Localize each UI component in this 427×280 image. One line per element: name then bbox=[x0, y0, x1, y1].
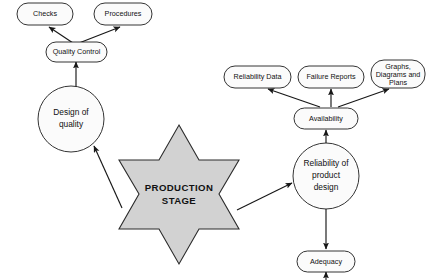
node-reliability-of-product-design-label-line2: product bbox=[312, 170, 341, 180]
node-design-of-quality-label-line1: Design of bbox=[53, 107, 89, 117]
node-design-of-quality[interactable]: Design of quality bbox=[38, 86, 104, 152]
node-production-stage-label-line1: PRODUCTION bbox=[145, 182, 214, 193]
node-adequacy-label: Adequacy bbox=[310, 257, 342, 266]
node-checks[interactable]: Checks bbox=[17, 3, 73, 25]
node-availability-label: Availability bbox=[309, 114, 343, 123]
node-procedures[interactable]: Procedures bbox=[94, 3, 152, 25]
edge-quality-control-to-checks bbox=[49, 27, 73, 43]
node-adequacy[interactable]: Adequacy bbox=[297, 251, 355, 272]
node-reliability-of-product-design[interactable]: Reliability of product design bbox=[293, 143, 359, 209]
node-graphs-diagrams-plans[interactable]: Graphs, Diagrams and Plans bbox=[371, 60, 425, 88]
node-reliability-of-product-design-label-line3: design bbox=[314, 182, 339, 192]
diagram-svg: Checks Procedures Quality Control Design… bbox=[0, 0, 427, 280]
node-quality-control-label: Quality Control bbox=[53, 47, 101, 56]
node-graphs-diagrams-plans-label-line3: Plans bbox=[389, 78, 407, 87]
edge-production-stage-to-reliability-of-product-design bbox=[237, 183, 292, 210]
node-availability[interactable]: Availability bbox=[294, 108, 358, 129]
edge-production-stage-to-design-of-quality bbox=[94, 146, 122, 208]
node-failure-reports-label: Failure Reports bbox=[306, 72, 356, 81]
diagram-canvas: Checks Procedures Quality Control Design… bbox=[0, 0, 427, 280]
edge-availability-to-graphs-diagrams-plans bbox=[338, 89, 389, 107]
node-design-of-quality-label-line2: quality bbox=[59, 119, 84, 129]
node-failure-reports[interactable]: Failure Reports bbox=[298, 66, 364, 88]
node-reliability-data[interactable]: Reliability Data bbox=[224, 66, 291, 88]
node-quality-control[interactable]: Quality Control bbox=[46, 42, 107, 62]
node-procedures-label: Procedures bbox=[105, 9, 142, 18]
node-production-stage[interactable]: PRODUCTION STAGE bbox=[119, 125, 239, 264]
edge-quality-control-to-procedures bbox=[79, 27, 120, 43]
node-reliability-of-product-design-label-line1: Reliability of bbox=[303, 158, 349, 168]
node-production-stage-label-line2: STAGE bbox=[162, 195, 197, 206]
node-checks-label: Checks bbox=[33, 9, 57, 18]
node-reliability-data-label: Reliability Data bbox=[234, 72, 282, 81]
edge-availability-to-reliability-data bbox=[268, 89, 320, 107]
